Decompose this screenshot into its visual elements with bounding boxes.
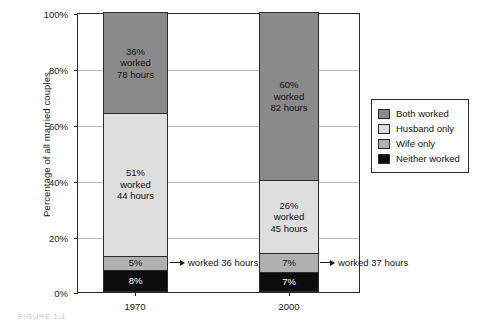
x-tick-1970 <box>135 292 136 296</box>
y-tick-100: 100% <box>74 14 78 15</box>
segment-hours: 78 hours <box>117 69 154 81</box>
y-tick-40: 40% <box>74 182 78 183</box>
legend-item-neither-worked[interactable]: Neither worked <box>378 151 460 166</box>
y-tick-20: 20% <box>74 238 78 239</box>
legend-swatch-icon <box>378 109 390 119</box>
y-tick-label-20: 20% <box>49 233 68 244</box>
bar-2000-segment-both-worked[interactable]: 60% worked 82 hours <box>259 12 319 180</box>
segment-worked-label: worked <box>120 57 151 69</box>
legend-item-wife-only[interactable]: Wife only <box>378 136 460 151</box>
plot-area: 100% 80% 60% 40% 20% 0% the time rising … <box>77 13 360 293</box>
segment-percent: 26% <box>279 200 298 212</box>
bar-1970-segment-husband-only[interactable]: 51% worked 44 hours <box>103 113 168 256</box>
segment-worked-label: worked <box>274 211 305 223</box>
segment-percent: 51% <box>126 167 145 179</box>
y-tick-label-0: 0% <box>54 288 68 299</box>
bar-2000[interactable]: 60% worked 82 hours 26% worked 45 hours … <box>259 12 319 292</box>
legend-item-both-worked[interactable]: Both worked <box>378 106 460 121</box>
legend-item-husband-only[interactable]: Husband only <box>378 121 460 136</box>
x-axis-label-2000: 2000 <box>278 301 299 312</box>
y-tick-60: 60% <box>74 126 78 127</box>
figure-caption: FIGURE 1.1 <box>18 312 66 321</box>
legend-swatch-icon <box>378 154 390 164</box>
segment-hours: 44 hours <box>117 190 154 202</box>
segment-worked-label: worked <box>120 179 151 191</box>
figure-stacked-bar-chart: Percentage of all married couples 100% 8… <box>0 0 489 325</box>
segment-percent: 36% <box>126 46 145 58</box>
segment-percent: 5% <box>129 257 143 269</box>
segment-worked-label: worked <box>274 91 305 103</box>
legend-label: Both worked <box>396 108 449 119</box>
bar-2000-segment-husband-only[interactable]: 26% worked 45 hours <box>259 180 319 253</box>
segment-percent: 60% <box>279 79 298 91</box>
bar-1970-segment-both-worked[interactable]: 36% worked 78 hours <box>103 12 168 113</box>
segment-percent: 8% <box>129 275 143 287</box>
y-tick-label-100: 100% <box>44 9 68 20</box>
bar-1970[interactable]: 36% worked 78 hours 51% worked 44 hours … <box>103 12 168 292</box>
y-tick-label-80: 80% <box>49 65 68 76</box>
x-axis-label-1970: 1970 <box>124 301 145 312</box>
y-tick-0: 0% <box>74 293 78 294</box>
y-tick-label-40: 40% <box>49 177 68 188</box>
y-tick-80: 80% <box>74 70 78 71</box>
bar-2000-segment-wife-only[interactable]: 7% <box>259 253 319 273</box>
segment-percent: 7% <box>282 257 296 269</box>
x-tick-2000 <box>289 292 290 296</box>
y-tick-label-60: 60% <box>49 121 68 132</box>
legend-swatch-icon <box>378 139 390 149</box>
bar-1970-segment-wife-only[interactable]: 5% <box>103 256 168 270</box>
legend-label: Wife only <box>396 138 435 149</box>
legend-label: Neither worked <box>396 153 460 164</box>
legend: Both worked Husband only Wife only Neith… <box>371 99 469 173</box>
legend-swatch-icon <box>378 124 390 134</box>
bar-1970-segment-neither-worked[interactable]: 8% <box>103 270 168 292</box>
segment-percent: 7% <box>282 276 296 288</box>
segment-hours: 82 hours <box>271 102 308 114</box>
bar-2000-segment-neither-worked[interactable]: 7% <box>259 272 319 292</box>
segment-hours: 45 hours <box>271 223 308 235</box>
legend-label: Husband only <box>396 123 454 134</box>
